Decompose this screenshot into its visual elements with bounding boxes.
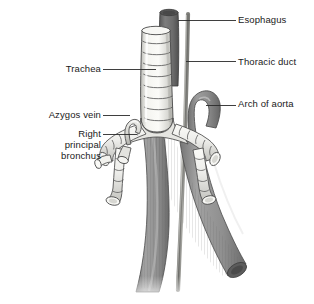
label-esophagus: Esophagus <box>238 14 286 25</box>
trachea-shape <box>141 26 173 132</box>
label-azygos-vein: Azygos vein <box>18 109 101 120</box>
label-right-principal-bronchus: Right principal bronchus <box>32 128 101 161</box>
label-arch-of-aorta: Arch of aorta <box>238 98 294 109</box>
label-thoracic-duct: Thoracic duct <box>238 56 296 67</box>
anatomy-figure: Esophagus Thoracic duct Arch of aorta Tr… <box>0 0 314 304</box>
right-principal-bronchus-shape <box>94 124 146 206</box>
label-trachea: Trachea <box>45 63 101 74</box>
